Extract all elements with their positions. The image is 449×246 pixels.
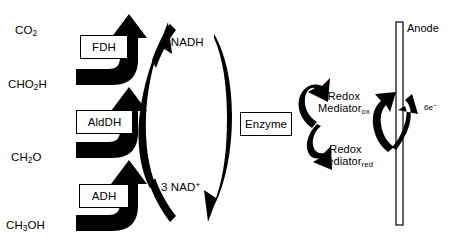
mediator-oxidized-line2: Mediator: [318, 102, 362, 114]
enzyme-box-adh-label: ADH: [92, 190, 117, 202]
mediator-reduced-line2: Mediator: [318, 155, 362, 167]
species-label-formic-acid: CHO2H: [8, 78, 47, 92]
mediator-label-reduced: Redox Mediatorred: [318, 143, 373, 169]
enzyme-box-fdh-label: FDH: [92, 41, 116, 53]
enzyme-box-alddh-label: AldDH: [88, 116, 122, 128]
electron-transfer-arrow-left: [373, 92, 396, 152]
electron-count-label: 6e−: [424, 102, 437, 113]
enzyme-box-fdh[interactable]: FDH: [80, 35, 128, 59]
species-label-carbon-dioxide: CO2: [15, 24, 37, 38]
mediator-oxidized-line1: Redox: [328, 90, 360, 102]
enzyme-linker-box[interactable]: Enzyme: [240, 112, 292, 136]
cofactor-label-nad-plus: 3 NAD+: [161, 181, 200, 194]
species-label-formaldehyde: CH2O: [11, 151, 42, 165]
mediator-label-oxidized: Redox Mediatorox: [318, 90, 370, 116]
mediator-reduced-line1: Redox: [329, 143, 361, 155]
cofactor-cycle-arrow-down: [204, 34, 232, 222]
anode-electrode-bar: [396, 22, 403, 225]
biofuel-cell-diagram: CO2 CHO2H CH2O CH3OH FDH AldDH ADH 3 NAD…: [0, 0, 449, 246]
species-label-methanol: CH3OH: [6, 219, 45, 233]
cofactor-label-nadh: 3 NADH: [161, 36, 204, 49]
diagram-vector-layer: [0, 0, 449, 246]
anode-label: Anode: [407, 22, 439, 34]
enzyme-box-alddh[interactable]: AldDH: [76, 110, 133, 134]
enzyme-linker-label: Enzyme: [245, 118, 287, 130]
enzyme-box-adh[interactable]: ADH: [79, 184, 129, 208]
